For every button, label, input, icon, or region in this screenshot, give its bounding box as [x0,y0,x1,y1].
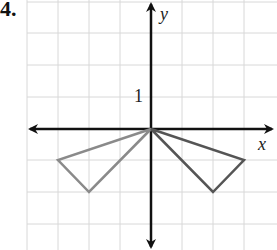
y-axis-label: y [160,4,168,25]
tick-label-1: 1 [134,86,143,107]
x-axis-label: x [258,134,266,155]
coordinate-plane [0,0,277,250]
